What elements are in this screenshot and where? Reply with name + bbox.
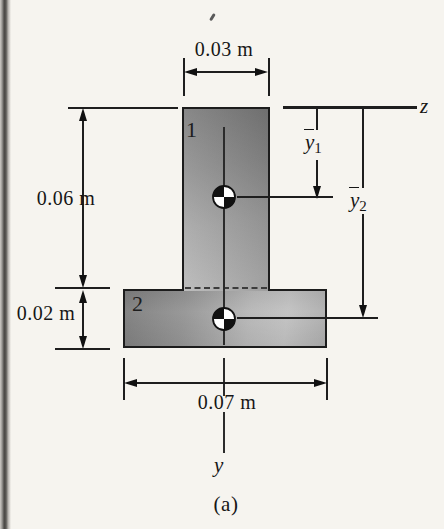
z-axis-label: z [420,94,428,119]
dim-flange-height-label: 0.02 m [6,302,86,325]
dim-flange-width-label: 0.07 m [177,391,277,414]
region-1-label: 1 [186,117,197,143]
dim-003-ext-right [268,58,270,96]
arrowhead-left-icon [124,379,137,387]
hidden-edge-dashed-line [185,287,267,289]
ybar2-line-lower [362,214,364,305]
ybar2-sub: 2 [359,198,367,214]
ybar1-base: y [305,130,314,155]
stray-mark [209,13,215,21]
arrowhead-left-icon [184,68,197,76]
ybar2-label: y2 [350,188,367,215]
arrowhead-right-icon [255,68,268,76]
centroid-1-leader-line [237,196,333,198]
region-2-label: 2 [132,291,143,317]
arrowhead-right-icon [314,379,327,387]
dim-003-ext-left [183,58,185,96]
y-axis-line-lower [223,412,225,453]
ybar2-line-upper [362,109,364,188]
dim-007-line [127,382,324,384]
ybar2-base: y [350,188,359,213]
centroid-2-icon [211,306,237,332]
dim-002-bottom-tick [55,348,110,350]
dim-stem-width-label: 0.03 m [174,38,274,61]
z-axis-line-right [283,106,417,109]
ybar1-line-lower [316,160,318,187]
dim-006-bottom-tick [55,287,110,289]
flange-top-edge-right [268,289,327,291]
arrowhead-up-icon [79,108,87,121]
ybar1-label: y1 [305,130,322,157]
dim-003-line [188,71,265,73]
figure-caption: (a) [196,492,256,517]
centroid-2-leader-line [237,317,378,319]
dim-stem-height-label: 0.06 m [18,187,114,210]
page-binding-strip [0,0,11,529]
y-axis-label: y [214,453,223,478]
centroid-1-icon [211,184,237,210]
figure-canvas: 1 2 z y 0.03 m 0.06 m 0.02 m 0.07 m y1 y… [0,0,444,529]
ybar1-sub: 1 [314,140,322,156]
ybar1-line-upper [316,109,318,130]
